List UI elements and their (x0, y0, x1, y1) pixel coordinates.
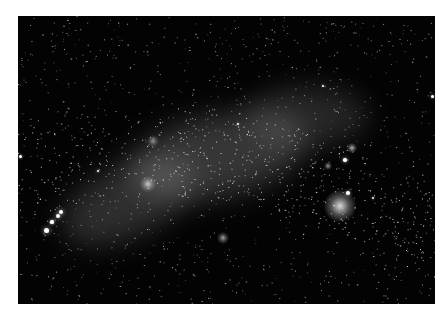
nebula (347, 143, 357, 153)
bright-star (343, 158, 347, 162)
star-field (18, 16, 435, 304)
bright-star (346, 191, 350, 195)
nebula (324, 162, 332, 170)
nebula (147, 135, 159, 147)
bright-star (50, 220, 53, 223)
bright-star (19, 155, 22, 158)
bright-star (44, 228, 49, 233)
nebula (217, 232, 229, 244)
galaxy-photo (18, 16, 435, 304)
bright-star (59, 210, 63, 214)
nebula (324, 190, 356, 222)
bright-star (431, 95, 434, 98)
nebula (140, 176, 156, 192)
